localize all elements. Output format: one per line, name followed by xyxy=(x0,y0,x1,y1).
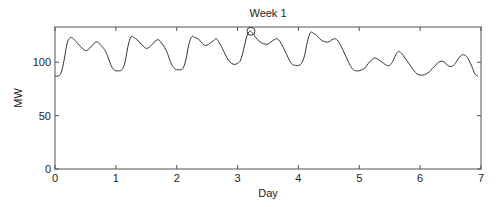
x-tick-label: 7 xyxy=(478,172,484,184)
y-tick-label: 50 xyxy=(39,110,51,122)
x-axis: 01234567 xyxy=(52,27,484,184)
plot-area xyxy=(55,27,481,169)
load-line xyxy=(55,31,478,76)
x-tick-label: 3 xyxy=(235,172,241,184)
x-tick-label: 1 xyxy=(113,172,119,184)
x-axis-label: Day xyxy=(258,187,278,199)
x-tick-label: 0 xyxy=(52,172,58,184)
chart-container: Week 1 01234567 050100 Day MW xyxy=(0,0,500,207)
y-tick-label: 0 xyxy=(45,163,51,175)
x-tick-label: 2 xyxy=(174,172,180,184)
y-axis-label: MW xyxy=(12,88,24,108)
x-tick-label: 5 xyxy=(356,172,362,184)
line-chart: Week 1 01234567 050100 Day MW xyxy=(0,0,500,207)
x-tick-label: 4 xyxy=(295,172,301,184)
y-axis: 050100 xyxy=(33,56,481,175)
y-tick-label: 100 xyxy=(33,56,51,68)
x-tick-label: 6 xyxy=(417,172,423,184)
chart-title: Week 1 xyxy=(249,7,286,19)
